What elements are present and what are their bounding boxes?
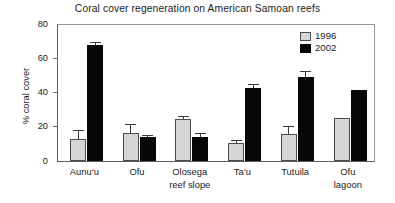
x-tick-label-ofu-lagoon: Ofu lagoon bbox=[322, 166, 375, 191]
error-cap-1996-tau bbox=[231, 140, 242, 141]
y-tick-label-40: 40 bbox=[22, 87, 48, 97]
error-cap-2002-ofu bbox=[142, 135, 153, 136]
error-bar-1996-aunuu bbox=[78, 131, 79, 139]
y-tick-label-60: 60 bbox=[22, 53, 48, 63]
x-tick-label-tutuila: Tutuila bbox=[269, 166, 322, 179]
bar-chart-figure: Coral cover regeneration on American Sam… bbox=[0, 0, 395, 203]
error-bar-2002-olosega-reef-slope bbox=[200, 134, 201, 137]
x-tick-label-olosega-reef-slope: Olosega reef slope bbox=[163, 166, 216, 191]
legend-swatch-icon-1996 bbox=[300, 32, 311, 41]
error-bar-1996-tau bbox=[236, 141, 237, 144]
bar-2002-ofu bbox=[140, 137, 156, 161]
legend-label-1996: 1996 bbox=[315, 31, 336, 41]
x-tick-label-tutuila-line1: Tutuila bbox=[281, 166, 309, 177]
x-tick-label-tau: Ta‘u bbox=[216, 166, 269, 179]
error-bar-2002-tau bbox=[253, 85, 254, 88]
error-cap-1996-ofu bbox=[125, 124, 136, 125]
bar-group-ofu bbox=[111, 25, 164, 161]
bar-1996-ofu bbox=[123, 133, 139, 161]
error-cap-1996-tutuila bbox=[283, 126, 294, 127]
error-cap-2002-tutuila bbox=[300, 71, 311, 72]
x-tick-label-aunuu-line1: Aunu‘u bbox=[70, 166, 99, 177]
error-cap-1996-aunuu bbox=[73, 130, 84, 131]
bar-2002-ofu-lagoon bbox=[351, 90, 367, 161]
x-tick-label-olosega-line2: reef slope bbox=[163, 179, 216, 192]
y-tick-label-20: 20 bbox=[22, 121, 48, 131]
error-cap-2002-olosega-reef-slope bbox=[195, 133, 206, 134]
error-bar-1996-ofu bbox=[130, 125, 131, 133]
x-tick-label-tau-line1: Ta‘u bbox=[234, 166, 251, 177]
legend-swatch-icon-2002 bbox=[300, 44, 311, 53]
error-cap-1996-olosega-reef-slope bbox=[178, 116, 189, 117]
bar-1996-tau bbox=[228, 143, 244, 161]
x-tick-label-ofu-line1: Ofu bbox=[129, 166, 144, 177]
bar-1996-olosega-reef-slope bbox=[175, 119, 191, 161]
x-tick-label-olosega-line1: Olosega bbox=[172, 166, 207, 177]
bar-1996-tutuila bbox=[281, 134, 297, 161]
x-tick-label-ofu-lagoon-line2: lagoon bbox=[322, 179, 375, 192]
bar-group-tau bbox=[216, 25, 269, 161]
chart-title: Coral cover regeneration on American Sam… bbox=[0, 3, 395, 14]
error-bar-2002-tutuila bbox=[305, 72, 306, 77]
legend-label-2002: 2002 bbox=[315, 43, 336, 53]
y-tick-label-80: 80 bbox=[22, 19, 48, 29]
bar-2002-olosega-reef-slope bbox=[192, 137, 208, 161]
error-bar-1996-olosega-reef-slope bbox=[183, 117, 184, 120]
bar-group-olosega-reef-slope bbox=[163, 25, 216, 161]
x-tick-label-aunuu: Aunu‘u bbox=[58, 166, 111, 179]
legend-item-2002: 2002 bbox=[300, 42, 364, 54]
bar-2002-aunuu bbox=[87, 45, 103, 161]
error-bar-1996-tutuila bbox=[288, 127, 289, 134]
error-cap-2002-tau bbox=[248, 84, 259, 85]
bar-group-aunuu bbox=[58, 25, 111, 161]
bar-1996-aunuu bbox=[70, 139, 86, 161]
legend-item-1996: 1996 bbox=[300, 30, 364, 42]
error-bar-2002-ofu bbox=[147, 136, 148, 138]
x-tick-label-ofu-lagoon-line1: Ofu bbox=[340, 166, 355, 177]
bar-2002-tau bbox=[245, 88, 261, 161]
x-tick-label-ofu: Ofu bbox=[111, 166, 164, 179]
bar-2002-tutuila bbox=[298, 77, 314, 161]
bar-1996-ofu-lagoon bbox=[334, 118, 350, 161]
error-cap-2002-aunuu bbox=[90, 42, 101, 43]
y-tick-label-0: 0 bbox=[22, 156, 48, 166]
legend: 1996 2002 bbox=[296, 27, 368, 58]
error-bar-2002-aunuu bbox=[95, 43, 96, 46]
